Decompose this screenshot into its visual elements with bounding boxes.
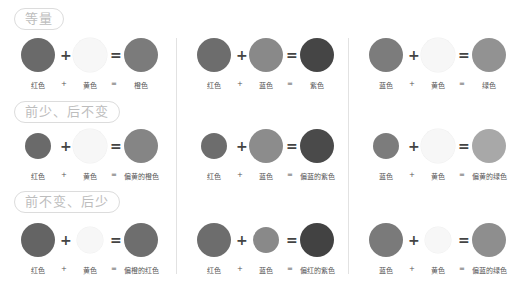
color-swatch-b	[421, 38, 455, 72]
equals-sign: =	[458, 48, 470, 62]
color-swatch-c	[124, 38, 158, 72]
color-label-a: 蓝色	[379, 171, 393, 181]
label-equals: =	[111, 171, 117, 179]
color-swatch-b	[73, 129, 107, 163]
color-label-b: 黄色	[431, 80, 445, 90]
plus-sign: +	[60, 139, 72, 153]
color-label-b: 黄色	[83, 265, 97, 275]
equals-sign: =	[286, 233, 298, 247]
color-label-b: 黄色	[83, 80, 97, 90]
color-label-b: 蓝色	[259, 265, 273, 275]
color-label-c: 橙色	[134, 80, 148, 90]
label-plus: +	[61, 171, 67, 179]
color-swatch-c	[472, 223, 506, 257]
label-plus: +	[237, 265, 243, 273]
label-plus: +	[61, 80, 67, 88]
label-plus: +	[237, 80, 243, 88]
section-title-less-second: 前不变、后少	[14, 191, 120, 213]
color-swatch-c	[300, 38, 334, 72]
color-label-b: 蓝色	[259, 171, 273, 181]
color-label-b: 黄色	[431, 171, 445, 181]
color-label-a: 红色	[31, 171, 45, 181]
color-swatch-b	[249, 129, 283, 163]
label-plus: +	[409, 80, 415, 88]
equals-sign: =	[110, 48, 122, 62]
color-label-c: 偏黄的绿色	[472, 171, 507, 181]
equals-sign: =	[458, 233, 470, 247]
color-label-a: 红色	[207, 171, 221, 181]
label-equals: =	[111, 80, 117, 88]
color-label-b: 黄色	[431, 265, 445, 275]
color-label-c: 紫色	[310, 80, 324, 90]
section-title-less-first: 前少、后不变	[14, 101, 120, 123]
color-swatch-b	[73, 38, 107, 72]
color-swatch-b	[425, 227, 451, 253]
label-equals: =	[287, 171, 293, 179]
color-label-a: 红色	[207, 265, 221, 275]
label-plus: +	[409, 171, 415, 179]
label-equals: =	[459, 80, 465, 88]
label-equals: =	[459, 265, 465, 273]
color-swatch-a	[197, 223, 231, 257]
equals-sign: =	[458, 139, 470, 153]
equals-sign: =	[286, 48, 298, 62]
equals-sign: =	[110, 233, 122, 247]
color-swatch-c	[124, 129, 158, 163]
column-divider-1	[176, 38, 177, 274]
color-swatch-c	[472, 38, 506, 72]
color-label-a: 蓝色	[379, 80, 393, 90]
color-swatch-c	[124, 223, 158, 257]
color-swatch-a	[25, 133, 51, 159]
color-label-b: 黄色	[83, 171, 97, 181]
color-label-a: 红色	[31, 80, 45, 90]
column-divider-2	[348, 38, 349, 274]
equals-sign: =	[286, 139, 298, 153]
color-swatch-c	[300, 129, 334, 163]
color-swatch-a	[197, 38, 231, 72]
color-swatch-a	[21, 223, 55, 257]
color-swatch-a	[201, 133, 227, 159]
plus-sign: +	[408, 233, 420, 247]
color-swatch-c	[472, 129, 506, 163]
color-swatch-b	[249, 38, 283, 72]
color-swatch-b	[253, 227, 279, 253]
label-equals: =	[111, 265, 117, 273]
plus-sign: +	[408, 48, 420, 62]
color-swatch-a	[21, 38, 55, 72]
plus-sign: +	[236, 48, 248, 62]
plus-sign: +	[236, 139, 248, 153]
plus-sign: +	[60, 48, 72, 62]
color-label-c: 偏蓝的紫色	[300, 171, 335, 181]
equals-sign: =	[110, 139, 122, 153]
color-swatch-a	[373, 133, 399, 159]
color-label-c: 偏蓝的绿色	[472, 265, 507, 275]
color-label-c: 偏橙的红色	[124, 265, 159, 275]
label-equals: =	[287, 265, 293, 273]
plus-sign: +	[408, 139, 420, 153]
color-swatch-c	[300, 223, 334, 257]
color-label-c: 绿色	[482, 80, 496, 90]
label-plus: +	[409, 265, 415, 273]
color-label-b: 蓝色	[259, 80, 273, 90]
color-label-a: 蓝色	[379, 265, 393, 275]
label-plus: +	[61, 265, 67, 273]
label-plus: +	[237, 171, 243, 179]
color-label-c: 偏黄的橙色	[124, 171, 159, 181]
color-label-a: 红色	[31, 265, 45, 275]
section-title-equal: 等量	[14, 8, 64, 30]
label-equals: =	[287, 80, 293, 88]
color-label-c: 偏红的紫色	[300, 265, 335, 275]
color-swatch-a	[369, 38, 403, 72]
color-swatch-b	[77, 227, 103, 253]
color-swatch-a	[369, 223, 403, 257]
plus-sign: +	[236, 233, 248, 247]
plus-sign: +	[60, 233, 72, 247]
color-label-a: 红色	[207, 80, 221, 90]
label-equals: =	[459, 171, 465, 179]
color-swatch-b	[421, 129, 455, 163]
